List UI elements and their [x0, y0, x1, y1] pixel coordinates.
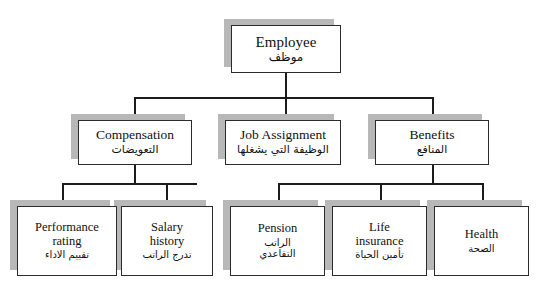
edge-level1-bus: [134, 97, 434, 99]
node-benefits-label-en: Benefits: [410, 128, 455, 143]
node-benefits[interactable]: Benefits المنافع: [375, 120, 489, 165]
diagram-canvas: Employee موظف Compensation التعويضات Job…: [0, 0, 541, 291]
node-job-assignment[interactable]: Job Assignment الوظيفة التي يشغلها: [225, 120, 341, 165]
node-compensation[interactable]: Compensation التعويضات: [78, 120, 192, 165]
node-salary-history-label-en: Salary history: [150, 221, 185, 248]
node-performance-rating-label-en: Performance rating: [35, 221, 99, 248]
node-job-assignment-label-en: Job Assignment: [240, 128, 326, 143]
node-performance-rating[interactable]: Performance rating تقييم الاداء: [17, 206, 117, 276]
node-employee-label-en: Employee: [256, 34, 317, 50]
node-pension-label-ar: الراتب التقاعدي: [260, 237, 296, 260]
node-benefits-label-ar: المنافع: [417, 144, 448, 157]
node-compensation-label-ar: التعويضات: [111, 144, 158, 157]
node-compensation-label-en: Compensation: [96, 128, 174, 143]
node-life-insurance-label-en: Life insurance: [356, 221, 404, 248]
edge-benefits-stem: [432, 165, 434, 184]
node-pension-label-en: Pension: [258, 222, 298, 236]
edge-compensation-stem: [134, 165, 136, 184]
node-life-insurance-label-ar: تأمين الحياة: [355, 249, 404, 261]
node-job-assignment-label-ar: الوظيفة التي يشغلها: [237, 144, 329, 157]
node-pension[interactable]: Pension الراتب التقاعدي: [230, 206, 325, 276]
node-salary-history[interactable]: Salary history تدرج الراتب: [121, 206, 213, 276]
node-health[interactable]: Health الصحة: [434, 206, 529, 276]
node-employee-label-ar: موظف: [269, 51, 304, 65]
node-health-label-ar: الصحة: [468, 243, 494, 255]
node-life-insurance[interactable]: Life insurance تأمين الحياة: [332, 206, 427, 276]
edge-compensation-bus: [62, 183, 197, 185]
node-health-label-en: Health: [465, 228, 498, 242]
node-performance-rating-label-ar: تقييم الاداء: [45, 249, 89, 261]
node-employee[interactable]: Employee موظف: [231, 25, 341, 73]
edge-employee-stem: [285, 73, 287, 98]
node-salary-history-label-ar: تدرج الراتب: [142, 249, 191, 261]
